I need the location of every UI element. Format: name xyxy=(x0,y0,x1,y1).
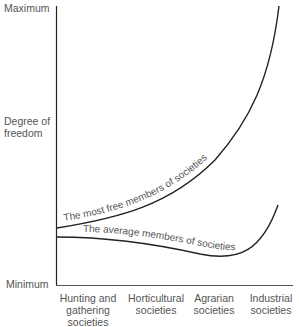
x-label-line: societies xyxy=(240,304,299,316)
x-label-line: societies xyxy=(182,304,246,316)
curve-average-label: The average members of societies xyxy=(83,223,236,252)
x-label-line: Agrarian xyxy=(182,292,246,304)
x-label-line: gathering xyxy=(52,304,124,316)
curve-most-free xyxy=(57,6,279,228)
x-label-hunting: Hunting and gathering societies xyxy=(52,292,124,327)
curve-most-free-label: The most free members of societies xyxy=(63,152,209,223)
x-label-line: societies xyxy=(52,316,124,327)
x-label-industrial: Industrial societies xyxy=(240,292,299,316)
x-label-line: Hunting and xyxy=(52,292,124,304)
x-label-agrarian: Agrarian societies xyxy=(182,292,246,316)
x-label-line: Industrial xyxy=(240,292,299,304)
chart-plot: The most free members of societies The a… xyxy=(0,0,299,327)
